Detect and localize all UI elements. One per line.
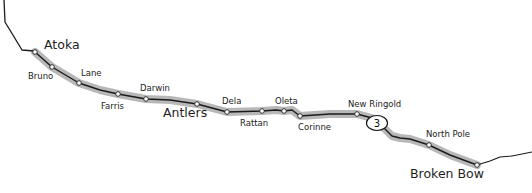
label-atoka: Atoka	[44, 39, 80, 52]
label-dela: Dela	[222, 97, 241, 106]
station-node-new-ringold[interactable]	[355, 112, 360, 117]
station-node-rattan[interactable]	[260, 109, 265, 114]
station-node-darwin[interactable]	[144, 97, 149, 102]
route-shield-number: 3	[374, 118, 380, 129]
station-node-oleta[interactable]	[282, 109, 287, 114]
label-broken-bow: Broken Bow	[410, 168, 484, 181]
station-node-lane[interactable]	[77, 81, 82, 86]
route-shield: 3	[367, 116, 388, 131]
station-node-bruno[interactable]	[50, 65, 55, 70]
label-rattan: Rattan	[240, 119, 268, 128]
station-node-corinne[interactable]	[298, 114, 303, 119]
label-north-pole: North Pole	[426, 130, 470, 139]
rail-line-west	[4, 0, 35, 52]
station-node-farris[interactable]	[116, 92, 121, 97]
label-darwin: Darwin	[140, 84, 170, 93]
label-corinne: Corinne	[298, 123, 331, 132]
label-oleta: Oleta	[275, 97, 298, 106]
label-bruno: Bruno	[28, 72, 53, 81]
rail-line-east	[477, 152, 532, 165]
station-node-dela[interactable]	[225, 110, 230, 115]
label-antlers: Antlers	[163, 107, 207, 120]
station-node-atoka[interactable]	[33, 50, 38, 55]
label-new-ringold: New Ringold	[348, 100, 401, 109]
route-map: 3	[0, 0, 532, 193]
station-node-north-pole[interactable]	[427, 143, 432, 148]
label-lane: Lane	[81, 69, 102, 78]
label-farris: Farris	[101, 102, 124, 111]
